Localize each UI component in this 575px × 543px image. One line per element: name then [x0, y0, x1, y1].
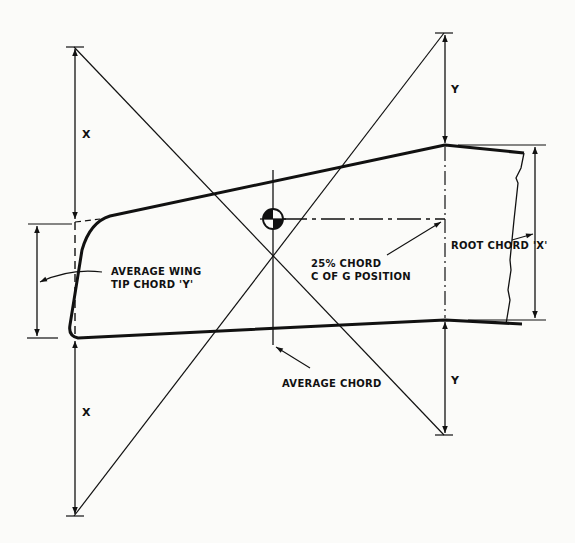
tip-chord-dimension	[27, 224, 72, 338]
tip-chord-label-line2: TIP CHORD 'Y'	[111, 279, 193, 290]
cg-label-line1: 25% CHORD	[311, 258, 381, 269]
cg-symbol-icon	[260, 209, 286, 229]
tip-top-dashed-extension	[75, 219, 100, 222]
cg-leader-arrow	[387, 222, 441, 255]
left-lower-x-label: X	[82, 406, 91, 419]
cg-label-line2: C OF G POSITION	[311, 271, 411, 282]
right-lower-y-label: Y	[450, 374, 460, 387]
tip-chord-label-line1: AVERAGE WING	[111, 266, 202, 277]
wing-cg-diagram: X X Y Y AVERAGE WING TIP CHORD 'Y' 25% C…	[0, 0, 575, 543]
left-upper-x-label: X	[82, 128, 91, 141]
root-chord-dimension	[458, 145, 546, 320]
average-chord-label: AVERAGE CHORD	[282, 378, 382, 389]
root-chord-label: ROOT CHORD 'X'	[451, 240, 548, 251]
tip-chord-leader-arrow	[40, 271, 102, 282]
right-upper-y-label: Y	[450, 83, 460, 96]
left-lower-x-dimension	[66, 341, 84, 516]
average-chord-leader-arrow	[276, 347, 310, 368]
root-break-line	[506, 153, 524, 324]
